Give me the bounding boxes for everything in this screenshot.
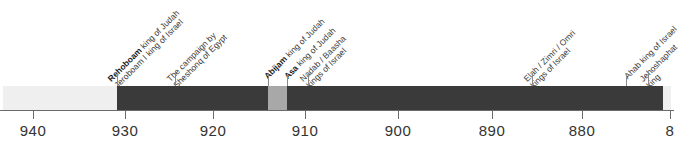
axis-tick (670, 110, 671, 119)
axis-tick-label: 890 (479, 122, 506, 139)
segment-rehoboam (117, 86, 268, 110)
axis-tick-label: 940 (20, 122, 47, 139)
segment-post-asa (663, 86, 671, 110)
axis-line (0, 110, 674, 111)
reign-bar (3, 86, 671, 110)
leader-shoshenq (175, 73, 176, 86)
leader-elah-zimri-omri (532, 73, 533, 86)
leader-nadab-baasha (308, 73, 309, 86)
annotation-line: Elah / Zimri / Omri (522, 29, 577, 84)
axis-tick (213, 110, 214, 119)
axis-tick-label: 880 (569, 122, 596, 139)
axis-tick-label: 920 (200, 122, 227, 139)
segment-pre-rehoboam (3, 86, 117, 110)
segment-abijam (268, 86, 287, 110)
axis-tick-label: 8 (666, 122, 675, 139)
axis-tick (305, 110, 306, 119)
axis-tick-label: 910 (292, 122, 319, 139)
leader-ahab (626, 73, 627, 86)
axis-tick (398, 110, 399, 119)
axis-tick (582, 110, 583, 119)
segment-asa (287, 86, 663, 110)
leader-rehoboam (117, 73, 118, 86)
axis-tick (492, 110, 493, 119)
axis-tick-label: 900 (385, 122, 412, 139)
axis-tick (33, 110, 34, 119)
leader-jehoshaphat (648, 73, 649, 86)
leader-abijam (268, 73, 269, 86)
axis-tick-label: 930 (112, 122, 139, 139)
leader-asa (287, 73, 288, 86)
axis-tick (125, 110, 126, 119)
